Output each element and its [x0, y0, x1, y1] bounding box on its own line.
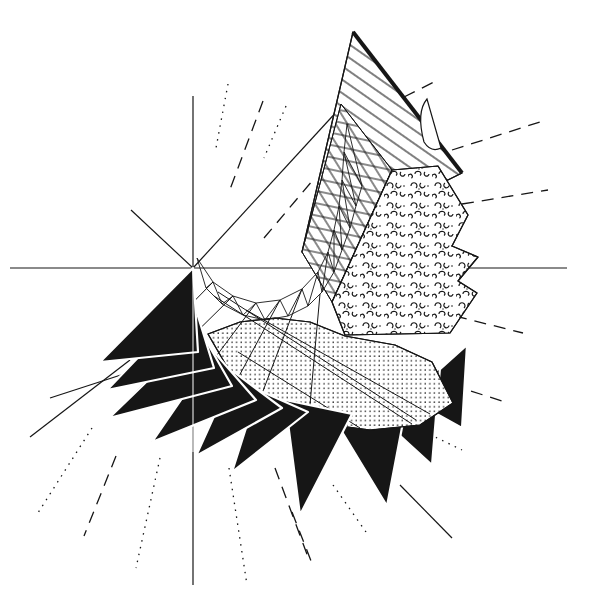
geometric-diagram	[0, 0, 589, 606]
dashed-ray-15	[229, 468, 247, 585]
shapes-layer	[100, 32, 478, 515]
sail-horn	[421, 99, 441, 150]
black-blade-1	[100, 268, 198, 362]
dashed-ray-6	[452, 122, 540, 150]
dashed-ray-17	[333, 485, 366, 532]
ray-lower-right	[400, 485, 452, 538]
mesh-strut	[280, 300, 288, 316]
mesh-strut	[197, 258, 206, 288]
dashed-ray-8	[455, 316, 523, 333]
dashed-ray-1	[216, 84, 228, 148]
mesh-diagonal	[206, 282, 213, 288]
mesh-strut	[302, 289, 308, 306]
dashed-ray-13	[84, 456, 116, 536]
dashed-ray-3	[264, 106, 286, 158]
ray-lower-left-a	[30, 360, 130, 437]
mesh-diagonal	[265, 300, 280, 320]
figure-canvas	[0, 0, 589, 606]
dashed-ray-12	[36, 428, 92, 516]
mesh-diagonal	[288, 289, 302, 316]
ray-upper-left	[131, 210, 193, 268]
dashed-ray-4	[264, 180, 313, 238]
dashed-ray-2	[229, 101, 263, 192]
dashed-ray-5	[404, 81, 436, 97]
mesh-diagonal	[222, 296, 233, 304]
dashed-ray-7	[462, 190, 548, 204]
dashed-ray-11	[292, 512, 313, 566]
dashed-ray-14	[136, 458, 160, 568]
